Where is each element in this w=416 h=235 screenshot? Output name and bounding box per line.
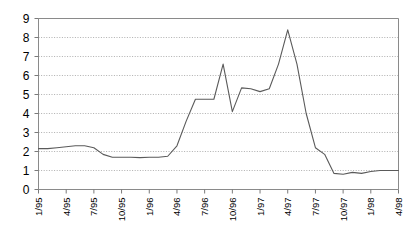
- chart-container: 0123456789 1/954/957/9510/951/964/967/96…: [0, 0, 416, 235]
- x-tick-label: 10/96: [227, 198, 238, 222]
- y-axis-ticks: [35, 19, 39, 190]
- y-tick-label: 8: [23, 31, 30, 45]
- x-axis-tick-labels: 1/954/957/9510/951/964/967/9610/961/974/…: [33, 198, 404, 222]
- y-axis-tick-labels: 0123456789: [23, 12, 30, 197]
- y-tick-label: 6: [23, 69, 30, 83]
- plot-frame: [39, 19, 399, 190]
- x-tick-label: 1/95: [33, 198, 44, 217]
- x-tick-label: 1/96: [144, 198, 155, 217]
- x-tick-label: 1/97: [255, 198, 266, 217]
- x-tick-label: 4/97: [282, 198, 293, 217]
- data-series: [39, 30, 399, 174]
- y-tick-label: 0: [23, 183, 30, 197]
- x-tick-label: 7/95: [88, 198, 99, 217]
- x-tick-label: 1/98: [365, 198, 376, 217]
- y-tick-label: 3: [23, 126, 30, 140]
- y-tick-label: 7: [23, 50, 30, 64]
- plot-area-border: [39, 19, 399, 190]
- y-tick-label: 4: [23, 107, 30, 121]
- x-tick-label: 4/96: [171, 198, 182, 217]
- x-axis-ticks: [39, 190, 399, 194]
- x-tick-label: 4/98: [393, 198, 404, 217]
- y-tick-label: 2: [23, 145, 30, 159]
- y-tick-label: 9: [23, 12, 30, 26]
- x-tick-label: 10/95: [116, 198, 127, 222]
- x-tick-label: 4/95: [61, 198, 72, 217]
- line-chart: 0123456789 1/954/957/9510/951/964/967/96…: [0, 0, 416, 235]
- x-tick-label: 7/96: [199, 198, 210, 217]
- x-tick-label: 7/97: [310, 198, 321, 217]
- y-tick-label: 5: [23, 88, 30, 102]
- x-tick-label: 10/97: [338, 198, 349, 222]
- y-tick-label: 1: [23, 164, 30, 178]
- series-line: [39, 30, 399, 174]
